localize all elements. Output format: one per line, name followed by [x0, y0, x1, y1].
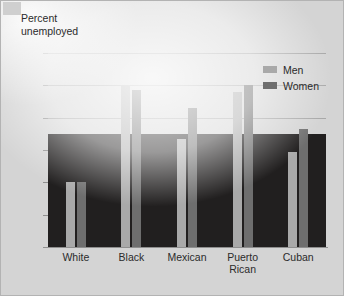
legend: Men Women [263, 63, 319, 95]
x-label-puerto-rican: Puerto Rican [215, 251, 271, 275]
bar-mexican-women [188, 108, 197, 247]
bar-mexican-men [177, 139, 186, 247]
legend-item-women: Women [263, 79, 319, 92]
x-label-cuban: Cuban [270, 251, 326, 263]
bar-black-men [121, 85, 130, 247]
bar-white-men [66, 182, 75, 247]
bar-white-women [77, 182, 86, 247]
corner-artifact [3, 2, 21, 15]
chart-figure: 024681012 WhiteBlackMexicanPuerto RicanC… [0, 0, 344, 296]
x-label-mexican: Mexican [159, 251, 215, 263]
legend-swatch-men-icon [263, 66, 277, 73]
bar-cuban-women [299, 129, 308, 247]
bar-puerto-rican-men [233, 92, 242, 247]
legend-label-women: Women [283, 80, 319, 92]
legend-swatch-women-icon [263, 82, 277, 89]
bar-black-women [132, 90, 141, 247]
chart-title: Percent unemployed [21, 12, 78, 37]
legend-item-men: Men [263, 63, 319, 76]
x-label-white: White [48, 251, 104, 263]
x-label-black: Black [104, 251, 160, 263]
x-axis-line [48, 247, 328, 248]
bar-puerto-rican-women [244, 85, 253, 247]
bar-cuban-men [288, 152, 297, 247]
legend-label-men: Men [283, 64, 303, 76]
